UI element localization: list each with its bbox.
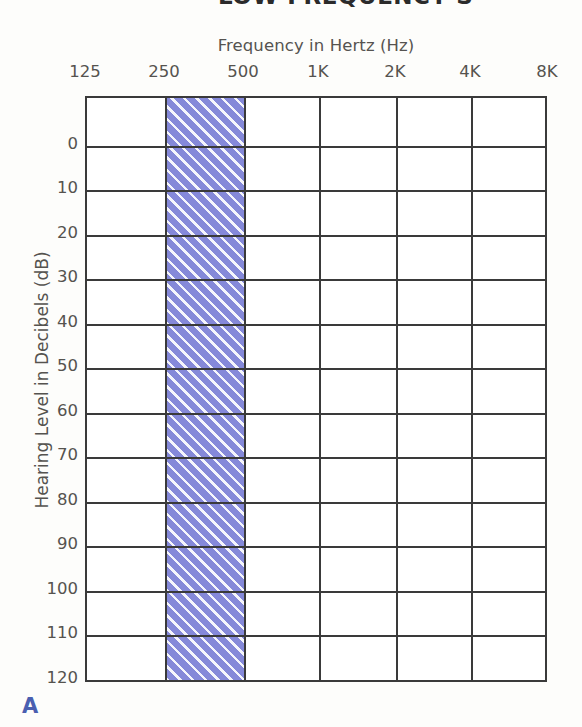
x-tick-label-4k: 4K xyxy=(440,62,500,81)
horizontal-gridline-40db xyxy=(87,324,545,326)
x-tick-label-125: 125 xyxy=(55,62,115,81)
horizontal-gridline-110db xyxy=(87,635,545,637)
y-axis-title: Hearing Level in Decibels (dB) xyxy=(32,180,52,580)
horizontal-gridline-20db xyxy=(87,235,545,237)
x-tick-label-250: 250 xyxy=(134,62,194,81)
x-tick-label-500: 500 xyxy=(213,62,273,81)
x-tick-label-8k: 8K xyxy=(517,62,577,81)
x-axis-title: Frequency in Hertz (Hz) xyxy=(85,36,547,55)
cropped-figure-title: LOW-FREQUENCY S xyxy=(0,0,582,11)
y-tick-label-120: 120 xyxy=(30,668,78,687)
x-tick-label-2k: 2K xyxy=(365,62,425,81)
audiogram-plot-area xyxy=(85,96,547,682)
horizontal-gridline-30db xyxy=(87,279,545,281)
y-tick-label-0: 0 xyxy=(30,134,78,153)
x-tick-label-1k: 1K xyxy=(288,62,348,81)
horizontal-gridline-80db xyxy=(87,502,545,504)
horizontal-gridline-70db xyxy=(87,457,545,459)
cropped-figure-title-text: LOW-FREQUENCY S xyxy=(218,0,473,9)
horizontal-gridline-10db xyxy=(87,190,545,192)
figure-panel-letter: A xyxy=(22,694,38,718)
horizontal-gridline-120db xyxy=(87,680,545,682)
horizontal-gridline-90db xyxy=(87,546,545,548)
horizontal-gridline-0db xyxy=(87,146,545,148)
horizontal-gridline-100db xyxy=(87,591,545,593)
horizontal-gridline-60db xyxy=(87,413,545,415)
y-tick-label-110: 110 xyxy=(30,623,78,642)
figure-page: LOW-FREQUENCY S Frequency in Hertz (Hz) … xyxy=(0,0,582,727)
horizontal-gridline-50db xyxy=(87,368,545,370)
y-tick-label-100: 100 xyxy=(30,579,78,598)
